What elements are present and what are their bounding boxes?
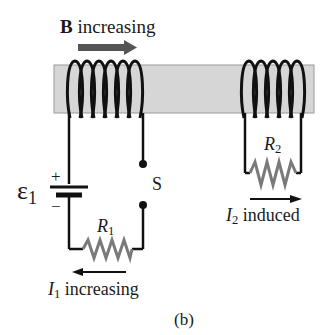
emf-symbol: ε (17, 176, 28, 205)
r2-symbol: R (264, 134, 275, 154)
r2-subscript: 2 (275, 142, 281, 156)
current2-label: I2 induced (226, 206, 300, 227)
switch-label: S (152, 175, 162, 193)
field-label: B increasing (60, 17, 156, 36)
current2-arrow-icon (250, 195, 302, 203)
battery-plus: + (51, 168, 61, 185)
panel-label-text: (b) (174, 310, 194, 329)
r1-symbol: R (97, 216, 108, 236)
battery-icon (50, 187, 88, 195)
i2-text: induced (238, 205, 299, 225)
emf-subscript: 1 (28, 188, 37, 208)
resistor-r1-label: R1 (97, 217, 114, 238)
field-text: increasing (73, 16, 156, 37)
resistor-r1-icon (83, 240, 132, 258)
current1-arrow-icon (72, 268, 126, 276)
field-symbol: B (60, 16, 73, 37)
i1-text: increasing (60, 279, 138, 299)
emf-label: ε1 (17, 178, 37, 207)
panel-label: (b) (174, 311, 194, 328)
battery-minus: − (51, 198, 61, 215)
r1-subscript: 1 (108, 224, 114, 238)
field-arrow-icon (78, 40, 137, 55)
resistor-r2-icon (250, 162, 296, 185)
resistor-r2-label: R2 (264, 135, 281, 156)
switch-icon (139, 160, 147, 209)
current1-label: I1 increasing (48, 280, 139, 301)
